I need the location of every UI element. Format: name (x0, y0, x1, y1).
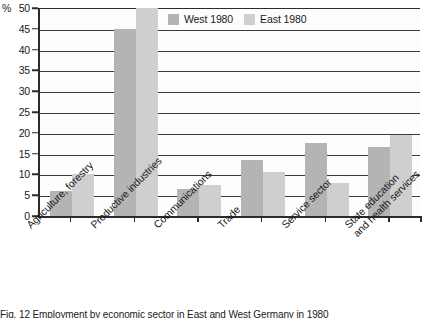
y-tick-label: 15 (19, 148, 30, 160)
plot-area (38, 8, 420, 216)
bar-east (199, 185, 221, 216)
y-tick-label: 50 (19, 2, 30, 14)
figure-caption: Fig. 12 Employment by economic sector in… (0, 309, 427, 318)
legend-swatch-east (244, 14, 255, 25)
x-tick-mark-end (420, 216, 422, 222)
gridline (40, 92, 420, 93)
figure-container: % 50454035302520151050 West 1980 East 19… (0, 0, 427, 318)
y-tick-label: 45 (19, 23, 30, 35)
x-tick-mark (197, 216, 199, 222)
x-tick-mark (325, 216, 327, 222)
x-tick-mark (388, 216, 390, 222)
y-tick-label: 20 (19, 127, 30, 139)
y-tick-label: 10 (19, 168, 30, 180)
bar-east (263, 172, 285, 216)
legend-item-east: East 1980 (244, 13, 306, 25)
gridline (40, 30, 420, 31)
gridline (40, 134, 420, 135)
y-tick-label: 25 (19, 106, 30, 118)
gridline (40, 113, 420, 114)
y-tick-label: 30 (19, 85, 30, 97)
y-tick-label: 40 (19, 44, 30, 56)
legend-label-east: East 1980 (260, 13, 306, 25)
x-tick-mark (70, 216, 72, 222)
y-axis-unit-label: % (2, 2, 11, 14)
y-tick-label: 5 (24, 189, 30, 201)
gridline (40, 71, 420, 72)
legend: West 1980 East 1980 (168, 13, 307, 25)
x-tick-mark (261, 216, 263, 222)
legend-label-west: West 1980 (184, 13, 233, 25)
bar-west (241, 160, 263, 216)
gridline (40, 175, 420, 176)
y-tick-label: 35 (19, 64, 30, 76)
gridline (40, 155, 420, 156)
legend-swatch-west (168, 14, 179, 25)
gridline (40, 196, 420, 197)
legend-item-west: West 1980 (168, 13, 233, 25)
y-axis: % 50454035302520151050 (0, 0, 38, 216)
x-tick-mark (134, 216, 136, 222)
gridline (40, 51, 420, 52)
